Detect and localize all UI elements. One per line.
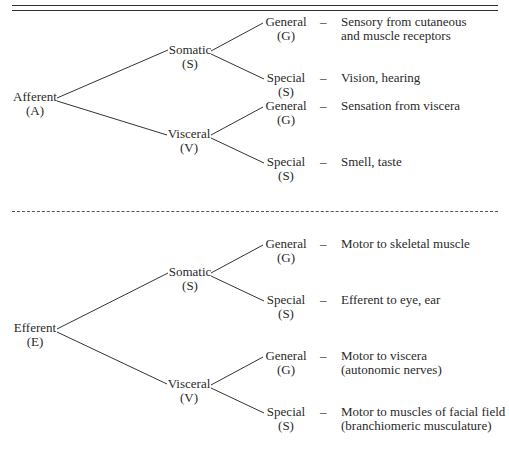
efferent-visceral-label: Visceral <box>167 377 211 391</box>
efferent-visceral-general-node: General (G) <box>264 349 308 377</box>
afferent-label: Afferent <box>12 90 58 104</box>
leaf-label: Special <box>264 71 308 85</box>
description-line: Motor to skeletal muscle <box>341 237 470 251</box>
leaf-label: General <box>264 237 308 251</box>
leaf-label: General <box>264 349 308 363</box>
afferent-visceral-special-description: Smell, taste <box>341 155 402 169</box>
afferent-somatic-general-description: Sensory from cutaneous and muscle recept… <box>341 15 467 43</box>
afferent-visceral-general-node: General (G) <box>264 99 308 127</box>
afferent-visceral-node: Visceral (V) <box>167 127 211 155</box>
efferent-visceral-node: Visceral (V) <box>167 377 211 405</box>
efferent-somatic-node: Somatic (S) <box>168 265 212 293</box>
section-divider <box>12 211 498 212</box>
afferent-visceral-special-node: Special (S) <box>264 155 308 183</box>
description-line: (branchiomeric musculature) <box>341 419 505 433</box>
leaf-dash: – <box>320 15 327 29</box>
leaf-dash: – <box>320 155 327 169</box>
leaf-abbr: (S) <box>264 85 308 99</box>
leaf-abbr: (S) <box>264 419 308 433</box>
leaf-dash: – <box>320 237 327 251</box>
leaf-dash: – <box>320 349 327 363</box>
description-line: Motor to viscera <box>341 349 442 363</box>
afferent-abbr: (A) <box>12 104 58 118</box>
leaf-label: General <box>264 99 308 113</box>
efferent-visceral-abbr: (V) <box>167 391 211 405</box>
afferent-visceral-label: Visceral <box>167 127 211 141</box>
efferent-visceral-general-description: Motor to viscera (autonomic nerves) <box>341 349 442 377</box>
leaf-dash: – <box>320 71 327 85</box>
afferent-somatic-general-node: General (G) <box>264 15 308 43</box>
leaf-abbr: (S) <box>264 169 308 183</box>
efferent-visceral-special-node: Special (S) <box>264 405 308 433</box>
description-line: Efferent to eye, ear <box>341 293 440 307</box>
description-line: Motor to muscles of facial field <box>341 405 505 419</box>
leaf-abbr: (G) <box>264 113 308 127</box>
description-line: Sensory from cutaneous <box>341 15 467 29</box>
afferent-somatic-special-description: Vision, hearing <box>341 71 420 85</box>
afferent-node: Afferent (A) <box>12 90 58 118</box>
afferent-somatic-special-node: Special (S) <box>264 71 308 99</box>
efferent-somatic-general-node: General (G) <box>264 237 308 265</box>
description-line: and muscle receptors <box>341 29 467 43</box>
leaf-dash: – <box>320 99 327 113</box>
efferent-somatic-label: Somatic <box>168 265 212 279</box>
afferent-somatic-label: Somatic <box>168 43 212 57</box>
leaf-dash: – <box>320 293 327 307</box>
description-line: (autonomic nerves) <box>341 363 442 377</box>
description-line: Vision, hearing <box>341 71 420 85</box>
afferent-visceral-general-description: Sensation from viscera <box>341 99 460 113</box>
leaf-abbr: (G) <box>264 251 308 265</box>
leaf-abbr: (G) <box>264 29 308 43</box>
leaf-label: Special <box>264 293 308 307</box>
description-line: Smell, taste <box>341 155 402 169</box>
efferent-node: Efferent (E) <box>12 321 58 349</box>
leaf-dash: – <box>320 405 327 419</box>
leaf-abbr: (S) <box>264 307 308 321</box>
description-line: Sensation from viscera <box>341 99 460 113</box>
tree-connectors <box>0 0 509 450</box>
afferent-somatic-node: Somatic (S) <box>168 43 212 71</box>
efferent-somatic-general-description: Motor to skeletal muscle <box>341 237 470 251</box>
leaf-label: General <box>264 15 308 29</box>
leaf-label: Special <box>264 405 308 419</box>
leaf-abbr: (G) <box>264 363 308 377</box>
efferent-label: Efferent <box>12 321 58 335</box>
afferent-somatic-abbr: (S) <box>168 57 212 71</box>
efferent-somatic-special-node: Special (S) <box>264 293 308 321</box>
efferent-somatic-abbr: (S) <box>168 279 212 293</box>
efferent-visceral-special-description: Motor to muscles of facial field (branch… <box>341 405 505 433</box>
efferent-abbr: (E) <box>12 335 58 349</box>
afferent-visceral-abbr: (V) <box>167 141 211 155</box>
efferent-somatic-special-description: Efferent to eye, ear <box>341 293 440 307</box>
leaf-label: Special <box>264 155 308 169</box>
